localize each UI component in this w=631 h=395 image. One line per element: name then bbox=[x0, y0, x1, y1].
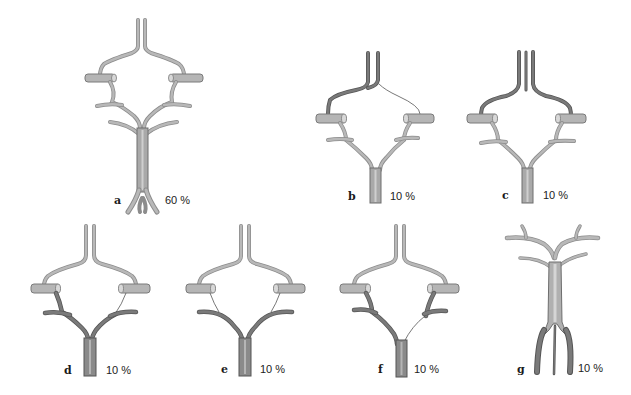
panel-label-a: a bbox=[114, 194, 121, 207]
panel-a: a 60 % bbox=[85, 20, 203, 212]
panel-percent-e: 10 % bbox=[260, 363, 285, 375]
panel-label-d: d bbox=[64, 364, 72, 377]
panel-percent-a: 60 % bbox=[165, 194, 190, 206]
panel-percent-f: 10 % bbox=[414, 363, 439, 375]
panel-c: c 10 % bbox=[467, 52, 586, 203]
panel-percent-c: 10 % bbox=[543, 189, 568, 201]
vessel-diagram-a bbox=[85, 20, 203, 212]
vessel-diagram-c bbox=[467, 52, 586, 203]
vessel-diagram-d bbox=[31, 226, 150, 376]
vessel-diagram-f bbox=[340, 226, 459, 377]
panel-d: d 10 % bbox=[31, 226, 150, 377]
panel-b: b 10 % bbox=[316, 53, 434, 203]
panel-label-c: c bbox=[502, 189, 509, 202]
circle-of-willis-variants-diagram: a 60 % b bbox=[0, 0, 631, 395]
vessel-diagram-b bbox=[316, 53, 434, 203]
panel-label-g: g bbox=[517, 363, 525, 376]
panel-percent-b: 10 % bbox=[390, 190, 415, 202]
vessel-diagram-e bbox=[186, 226, 305, 376]
panel-g: g 10 % bbox=[507, 226, 603, 376]
figure-canvas: a 60 % b bbox=[0, 0, 631, 395]
panel-percent-d: 10 % bbox=[106, 364, 131, 376]
panel-e: e 10 % bbox=[186, 226, 305, 376]
panel-f: f 10 % bbox=[340, 226, 459, 377]
panel-label-b: b bbox=[348, 190, 356, 203]
panel-label-e: e bbox=[221, 363, 228, 376]
panel-label-f: f bbox=[378, 363, 384, 376]
vessel-diagram-g bbox=[507, 226, 598, 374]
panel-percent-g: 10 % bbox=[578, 362, 603, 374]
